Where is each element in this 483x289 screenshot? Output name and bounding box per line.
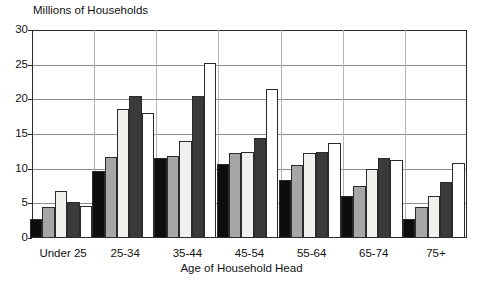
y-tick-label: 20	[4, 93, 28, 105]
bar	[266, 89, 278, 238]
bar	[55, 191, 67, 238]
bar	[341, 196, 353, 238]
bar	[378, 158, 390, 238]
x-tick-label: 25-34	[94, 247, 156, 259]
bar-chart: Millions of Households 051015202530 Unde…	[0, 0, 483, 289]
bar	[279, 180, 291, 238]
bar	[452, 163, 464, 238]
bar	[179, 141, 191, 238]
y-tick-label: 0	[4, 232, 28, 244]
y-tick-label: 10	[4, 163, 28, 175]
bar-group	[343, 30, 405, 238]
y-tick-label: 30	[4, 24, 28, 36]
bar-group	[94, 30, 156, 238]
bar	[105, 157, 117, 238]
bar	[192, 96, 204, 238]
bar	[80, 206, 92, 238]
y-tick-label: 25	[4, 59, 28, 71]
bar	[440, 182, 452, 238]
x-tick-label: 35-44	[156, 247, 218, 259]
bar	[353, 186, 365, 238]
bar	[67, 202, 79, 238]
x-tick-label: 65-74	[343, 247, 405, 259]
bar	[415, 207, 427, 238]
y-tick-mark	[28, 238, 32, 239]
bar	[291, 165, 303, 238]
bar-groups	[32, 30, 467, 238]
bar	[117, 109, 129, 238]
x-axis-title: Age of Household Head	[0, 262, 483, 274]
bar	[229, 153, 241, 238]
bar-group	[32, 30, 94, 238]
bar-group	[218, 30, 280, 238]
bar	[241, 152, 253, 238]
x-tick-label: 55-64	[281, 247, 343, 259]
bar	[390, 160, 402, 238]
y-tick-label: 5	[4, 197, 28, 209]
bar	[316, 152, 328, 238]
bar	[30, 219, 42, 238]
bar	[254, 138, 266, 238]
x-tick-label: 45-54	[218, 247, 280, 259]
bar	[428, 196, 440, 238]
bar	[217, 164, 229, 238]
bar	[42, 207, 54, 238]
y-tick-label: 15	[4, 128, 28, 140]
bar-group	[405, 30, 467, 238]
bar	[167, 156, 179, 239]
bar	[366, 169, 378, 238]
x-tick-label: 75+	[405, 247, 467, 259]
bar	[154, 158, 166, 238]
x-tick-label: Under 25	[32, 247, 94, 259]
bar-group	[281, 30, 343, 238]
bar	[92, 171, 104, 238]
bar	[129, 96, 141, 238]
bar	[142, 113, 154, 238]
bar	[303, 153, 315, 238]
bar	[403, 219, 415, 238]
bar-group	[156, 30, 218, 238]
bar	[328, 143, 340, 238]
bar	[204, 63, 216, 238]
